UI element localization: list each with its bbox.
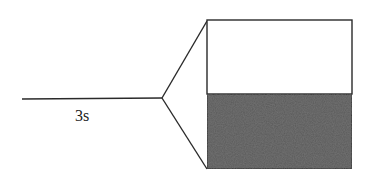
stem-label: 3s [75, 107, 89, 124]
splitting-diagram: 3s [0, 0, 374, 184]
fan-line-lower [162, 98, 207, 169]
stem-line [22, 98, 162, 99]
upper-level-box [207, 20, 352, 94]
fan-line-upper [162, 21, 207, 98]
lower-level-box-filled [207, 94, 352, 169]
